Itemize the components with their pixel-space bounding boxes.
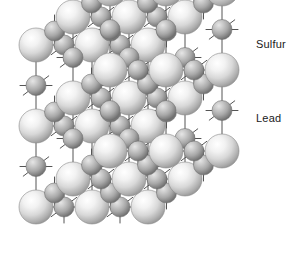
sulfur-atom-sphere: [205, 134, 239, 168]
lead-atom-sphere: [63, 48, 83, 68]
lead-atom-sphere: [156, 101, 176, 121]
lead-atom-sphere: [184, 60, 204, 80]
lead-atom-sphere: [26, 76, 46, 96]
lead-atom-sphere: [128, 141, 148, 161]
lattice-canvas: [0, 0, 289, 255]
lead-atom-sphere: [212, 101, 232, 121]
lead-atom-sphere: [184, 141, 204, 161]
sulfur-label: Sulfur: [256, 38, 286, 50]
lead-atom-sphere: [156, 20, 176, 40]
sulfur-atom-sphere: [93, 53, 127, 87]
sulfur-atom-sphere: [205, 53, 239, 87]
lead-atom-sphere: [128, 60, 148, 80]
atom-sphere-group: [19, 0, 239, 224]
lead-label: Lead: [256, 112, 281, 124]
sulfur-atom-sphere: [149, 53, 183, 87]
lead-atom-sphere: [100, 20, 120, 40]
lead-atom-sphere: [26, 157, 46, 177]
sulfur-atom-sphere: [93, 134, 127, 168]
lead-atom-sphere: [63, 129, 83, 149]
crystal-lattice-figure: Sulfur Lead: [0, 0, 289, 255]
lead-atom-sphere: [100, 101, 120, 121]
sulfur-atom-sphere: [149, 134, 183, 168]
lead-atom-sphere: [212, 20, 232, 40]
